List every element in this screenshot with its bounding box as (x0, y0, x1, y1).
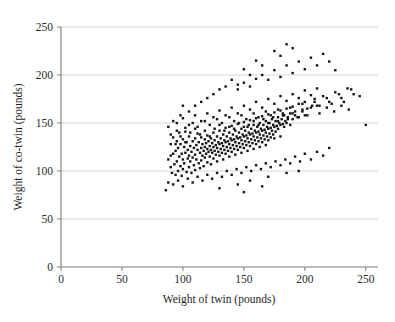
x-tick-label-200: 200 (296, 273, 314, 285)
data-point (220, 137, 222, 139)
data-point (294, 114, 296, 116)
data-point (263, 129, 265, 131)
data-point (301, 103, 303, 105)
data-point (167, 181, 169, 183)
data-point (228, 131, 230, 133)
data-point (285, 122, 287, 124)
data-point (167, 126, 169, 128)
data-point (311, 105, 313, 107)
data-point (176, 129, 178, 131)
data-point (255, 164, 257, 166)
data-point (304, 153, 306, 155)
data-point (191, 122, 193, 124)
data-point (365, 124, 367, 126)
data-point (206, 148, 208, 150)
data-point (266, 135, 268, 137)
x-tick-label-50: 50 (116, 273, 128, 285)
data-point (298, 170, 300, 172)
data-point (252, 135, 254, 137)
data-point (313, 98, 315, 100)
data-point (196, 149, 198, 151)
data-point (267, 113, 269, 115)
data-point (256, 136, 258, 138)
data-point (261, 106, 263, 108)
data-point (289, 106, 291, 108)
data-point (237, 83, 239, 85)
data-point (261, 129, 263, 131)
y-tick-label-150: 150 (36, 117, 54, 129)
data-point (243, 105, 245, 107)
data-point (255, 101, 257, 103)
data-point (277, 128, 279, 130)
data-point (235, 145, 237, 147)
data-point (243, 121, 245, 123)
data-point (250, 138, 252, 140)
y-tick-label-200: 200 (36, 69, 54, 81)
data-point (204, 129, 206, 131)
data-point (241, 143, 243, 145)
data-point (216, 160, 218, 162)
data-point (200, 120, 202, 122)
data-point (249, 145, 251, 147)
data-point (252, 148, 254, 150)
data-point (246, 150, 248, 152)
data-point (209, 155, 211, 157)
data-point (272, 133, 274, 135)
data-point (218, 154, 220, 156)
data-point (188, 124, 190, 126)
data-point (334, 69, 336, 71)
data-point (280, 118, 282, 120)
data-point (204, 120, 206, 122)
data-point (233, 128, 235, 130)
data-point (185, 171, 187, 173)
data-point (291, 93, 293, 95)
data-point (230, 174, 232, 176)
data-point (273, 111, 275, 113)
data-point (217, 151, 219, 153)
x-tick-label-100: 100 (174, 273, 192, 285)
data-point (210, 149, 212, 151)
data-point (182, 185, 184, 187)
data-point (170, 143, 172, 145)
data-point (244, 129, 246, 131)
data-point (255, 59, 257, 61)
data-point (198, 141, 200, 143)
data-point (184, 130, 186, 132)
data-point (248, 124, 250, 126)
data-point (250, 170, 252, 172)
data-point (211, 152, 213, 154)
data-point (187, 177, 189, 179)
data-point (189, 131, 191, 133)
data-point (285, 64, 287, 66)
data-point (252, 120, 254, 122)
data-point (277, 120, 279, 122)
data-point (289, 124, 291, 126)
data-point (340, 97, 342, 99)
data-point (265, 110, 267, 112)
data-point (224, 127, 226, 129)
data-point (182, 105, 184, 107)
data-point (237, 88, 239, 90)
data-point (221, 122, 223, 124)
data-point (198, 162, 200, 164)
data-point (271, 129, 273, 131)
data-point (298, 97, 300, 99)
data-point (282, 114, 284, 116)
data-point (226, 135, 228, 137)
data-point (204, 138, 206, 140)
data-point (243, 147, 245, 149)
data-point (206, 134, 208, 136)
data-point (177, 170, 179, 172)
data-point (243, 126, 245, 128)
data-point (260, 137, 262, 139)
data-point (216, 135, 218, 137)
y-tick-label-50: 50 (42, 213, 54, 225)
data-point (209, 145, 211, 147)
data-point (170, 154, 172, 156)
data-point (194, 137, 196, 139)
data-point (181, 175, 183, 177)
data-point (167, 158, 169, 160)
data-point (260, 168, 262, 170)
data-point (215, 153, 217, 155)
data-point (262, 118, 264, 120)
